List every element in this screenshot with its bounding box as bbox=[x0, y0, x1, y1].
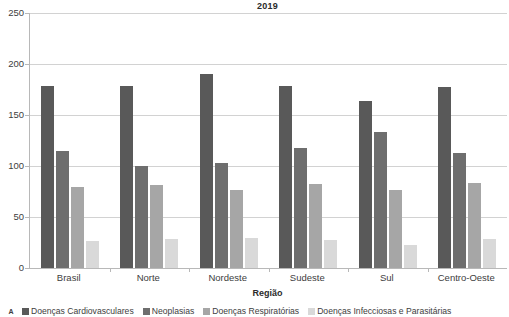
x-axis-label-2: Nordeste bbox=[188, 272, 268, 284]
legend-label: Doenças Infecciosas e Parasitárias bbox=[317, 306, 451, 316]
y-axis-tick-mark-50 bbox=[25, 217, 29, 218]
chart-legend: A Doenças CardiovascularesNeoplasiasDoen… bbox=[0, 305, 509, 317]
bar[interactable] bbox=[56, 151, 69, 268]
y-axis-tick-label-200: 200 bbox=[0, 59, 24, 69]
bar[interactable] bbox=[309, 184, 322, 268]
x-axis-label-0: Brasil bbox=[29, 272, 109, 284]
bar[interactable] bbox=[389, 190, 402, 268]
bar[interactable] bbox=[294, 148, 307, 268]
bar-group bbox=[110, 13, 190, 268]
y-axis-tick-label-150: 150 bbox=[0, 110, 24, 120]
legend-swatch-icon bbox=[308, 308, 315, 315]
bar[interactable] bbox=[135, 166, 148, 268]
bar[interactable] bbox=[150, 185, 163, 268]
bar[interactable] bbox=[200, 74, 213, 268]
bar[interactable] bbox=[230, 190, 243, 268]
chart-title: 2019 bbox=[29, 1, 506, 12]
legend-swatch-icon bbox=[143, 308, 150, 315]
plot-area bbox=[29, 13, 507, 269]
y-axis-tick-mark-0 bbox=[25, 268, 29, 269]
y-axis-tick-label-50: 50 bbox=[0, 212, 24, 222]
bar[interactable] bbox=[374, 132, 387, 268]
legend-item-1[interactable]: Neoplasias bbox=[143, 306, 195, 316]
legend-item-0[interactable]: Doenças Cardiovasculares bbox=[22, 306, 134, 316]
y-axis-tick-label-250: 250 bbox=[0, 8, 24, 18]
x-axis-category-labels: BrasilNorteNordesteSudesteSulCentro-Oest… bbox=[29, 272, 506, 284]
bar[interactable] bbox=[468, 183, 481, 268]
bar-group bbox=[189, 13, 269, 268]
x-axis-label-3: Sudeste bbox=[268, 272, 348, 284]
legend-label: Doenças Cardiovasculares bbox=[31, 306, 134, 316]
x-axis-label-1: Norte bbox=[109, 272, 189, 284]
legend-label: Doenças Respiratórias bbox=[212, 306, 299, 316]
y-axis-tick-label-0: 0 bbox=[0, 263, 24, 273]
bar[interactable] bbox=[86, 241, 99, 268]
legend-items: Doenças CardiovascularesNeoplasiasDoença… bbox=[22, 306, 509, 316]
bar-group bbox=[269, 13, 349, 268]
legend-swatch-icon bbox=[22, 308, 29, 315]
bar-group bbox=[428, 13, 508, 268]
bar[interactable] bbox=[359, 101, 372, 268]
bar-groups bbox=[30, 13, 507, 268]
bar[interactable] bbox=[279, 86, 292, 268]
y-axis-tick-mark-100 bbox=[25, 166, 29, 167]
bar-group bbox=[348, 13, 428, 268]
bar[interactable] bbox=[165, 239, 178, 268]
legend-item-3[interactable]: Doenças Infecciosas e Parasitárias bbox=[308, 306, 451, 316]
bar[interactable] bbox=[324, 240, 337, 268]
x-axis-label-5: Centro-Oeste bbox=[427, 272, 507, 284]
bar[interactable] bbox=[453, 153, 466, 268]
bar[interactable] bbox=[41, 86, 54, 268]
bar-chart: 2019 050100150200250 BrasilNorteNordeste… bbox=[0, 0, 509, 317]
legend-item-2[interactable]: Doenças Respiratórias bbox=[203, 306, 299, 316]
x-axis-title: Região bbox=[29, 288, 506, 299]
y-axis-tick-mark-250 bbox=[25, 13, 29, 14]
bar[interactable] bbox=[245, 238, 258, 268]
y-axis-tick-mark-200 bbox=[25, 64, 29, 65]
bar[interactable] bbox=[483, 239, 496, 268]
y-axis-tick-mark-150 bbox=[25, 115, 29, 116]
legend-label: Neoplasias bbox=[152, 306, 195, 316]
y-axis-tick-label-100: 100 bbox=[0, 161, 24, 171]
bar[interactable] bbox=[215, 163, 228, 268]
legend-corner-marker: A bbox=[0, 308, 22, 315]
bar[interactable] bbox=[71, 187, 84, 268]
bar-group bbox=[30, 13, 110, 268]
legend-swatch-icon bbox=[203, 308, 210, 315]
x-axis-label-4: Sul bbox=[347, 272, 427, 284]
bar[interactable] bbox=[438, 87, 451, 268]
bar[interactable] bbox=[404, 245, 417, 268]
bar[interactable] bbox=[120, 86, 133, 268]
